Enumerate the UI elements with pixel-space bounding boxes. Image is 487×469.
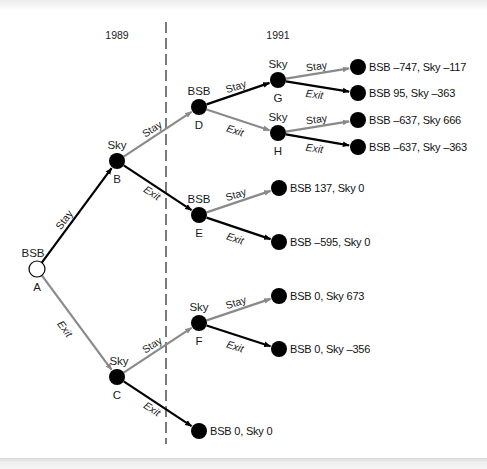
- node-a-id: A: [33, 281, 41, 293]
- node-e-player: BSB: [187, 193, 210, 205]
- edge-b-exit: [124, 165, 192, 210]
- edge-label-e-exit: Exit: [225, 230, 246, 247]
- edge-label-h-exit: Exit: [305, 141, 325, 155]
- payoff-h-exit: BSB –637, Sky –363: [369, 141, 467, 153]
- edge-label-d-h: Exit: [225, 122, 246, 139]
- edge-label-c-f: Stay: [140, 333, 165, 355]
- terminal-h-exit: [350, 139, 366, 155]
- node-g: [270, 72, 286, 88]
- node-d-id: D: [195, 119, 203, 131]
- node-d-player: BSB: [187, 85, 210, 97]
- year-label-1991: 1991: [266, 29, 290, 41]
- node-e: [191, 207, 207, 223]
- terminal-c-exit: [191, 423, 207, 439]
- edge-label-a-c: Exit: [55, 318, 76, 340]
- node-d: [191, 99, 207, 115]
- edge-label-b-e: Exit: [142, 183, 164, 203]
- edge-label-h-stay: Stay: [305, 112, 328, 127]
- payoff-h-stay: BSB –637, Sky 666: [369, 114, 461, 126]
- node-b-player: Sky: [107, 139, 126, 151]
- edge-label-g-stay: Stay: [305, 59, 328, 74]
- edge-a-exit: [42, 275, 112, 369]
- edge-label-b-d: Stay: [140, 117, 165, 139]
- year-label-1989: 1989: [105, 29, 129, 41]
- node-f-player: Sky: [189, 301, 208, 313]
- edge-label-f-exit: Exit: [225, 338, 246, 355]
- edge-label-c-exit: Exit: [142, 399, 164, 419]
- node-c: [109, 369, 125, 385]
- edge-a-stay: [42, 168, 112, 262]
- terminal-e-exit: [271, 234, 287, 250]
- node-a-player: BSB: [21, 247, 44, 259]
- node-f: [191, 315, 207, 331]
- node-h-player: Sky: [268, 111, 287, 123]
- payoff-f-stay: BSB 0, Sky 673: [290, 290, 364, 302]
- node-f-id: F: [195, 335, 202, 347]
- node-a: [29, 261, 45, 277]
- game-tree-diagram: 1989 1991 Stay Exit Stay Exit Stay Exit …: [0, 0, 487, 469]
- node-c-id: C: [113, 389, 121, 401]
- terminal-g-exit: [350, 85, 366, 101]
- node-c-player: Sky: [109, 355, 128, 367]
- payoff-c-exit: BSB 0, Sky 0: [210, 425, 272, 437]
- terminal-e-stay: [271, 180, 287, 196]
- terminal-f-stay: [271, 288, 287, 304]
- edge-c-exit: [124, 381, 192, 426]
- edge-label-g-exit: Exit: [305, 87, 325, 101]
- terminal-f-exit: [271, 341, 287, 357]
- terminal-g-stay: [350, 59, 366, 75]
- edge-label-a-b: Stay: [53, 207, 76, 232]
- terminal-h-stay: [350, 112, 366, 128]
- node-e-id: E: [195, 227, 203, 239]
- payoff-f-exit: BSB 0, Sky –356: [290, 343, 370, 355]
- payoff-g-exit: BSB 95, Sky –363: [369, 87, 455, 99]
- node-b-id: B: [113, 173, 121, 185]
- node-h-id: H: [274, 145, 282, 157]
- node-h: [270, 125, 286, 141]
- node-g-player: Sky: [268, 58, 287, 70]
- node-b: [109, 153, 125, 169]
- node-g-id: G: [274, 92, 283, 104]
- terminal-nodes-group: BSB –747, Sky –117 BSB 95, Sky –363 BSB …: [191, 59, 467, 439]
- payoff-g-stay: BSB –747, Sky –117: [369, 61, 466, 73]
- payoff-e-exit: BSB –595, Sky 0: [290, 236, 370, 248]
- payoff-e-stay: BSB 137, Sky 0: [290, 182, 364, 194]
